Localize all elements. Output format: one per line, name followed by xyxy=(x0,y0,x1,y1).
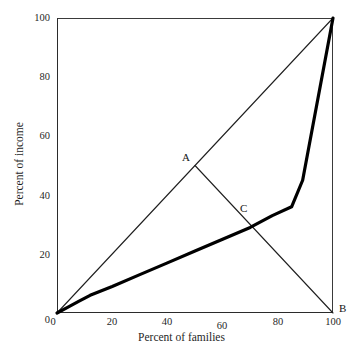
y-tick-label-60: 60 xyxy=(28,131,50,142)
x-tick-label-20: 20 xyxy=(107,317,118,328)
x-tick-label-100: 100 xyxy=(325,317,341,328)
x-tick-label-80: 80 xyxy=(273,317,284,328)
x-tick-label-0: 0 xyxy=(50,317,55,328)
x-tick-label-60: 60 xyxy=(217,321,228,332)
y-tick-label-80: 80 xyxy=(28,72,50,83)
plot-frame xyxy=(57,18,333,313)
y-axis-title: Percent of income xyxy=(13,94,25,234)
y-tick-label-100: 100 xyxy=(28,13,50,24)
point-label-b: B xyxy=(339,303,346,314)
x-tick-label-40: 40 xyxy=(162,317,173,328)
lorenz-curve-figure: 100 80 60 40 20 0 0 20 40 60 80 100 Perc… xyxy=(0,0,363,352)
y-tick-label-0: 0 xyxy=(28,315,50,326)
point-label-c: C xyxy=(240,203,247,214)
point-label-a: A xyxy=(182,152,190,163)
y-tick-label-40: 40 xyxy=(28,190,50,201)
x-axis-title: Percent of families xyxy=(0,331,363,343)
y-tick-label-20: 20 xyxy=(28,249,50,260)
